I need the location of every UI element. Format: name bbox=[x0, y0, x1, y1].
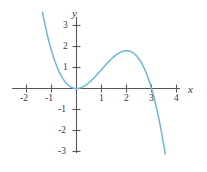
x-tick-label-neg2: -2 bbox=[20, 93, 28, 103]
coordinate-plot bbox=[0, 0, 207, 172]
x-tick-label-2: 2 bbox=[124, 93, 129, 103]
graph-figure: y x -2 -1 1 2 3 4 3 2 1 -1 -2 -3 bbox=[0, 0, 207, 172]
y-tick-label-neg2: -2 bbox=[58, 125, 66, 135]
y-tick-label-neg3: -3 bbox=[58, 146, 66, 156]
y-tick-label-1: 1 bbox=[63, 62, 68, 72]
x-tick-label-3: 3 bbox=[149, 93, 154, 103]
y-tick-label-neg1: -1 bbox=[58, 104, 66, 114]
x-tick-label-neg1: -1 bbox=[45, 93, 53, 103]
x-tick-label-1: 1 bbox=[99, 93, 104, 103]
x-tick-label-4: 4 bbox=[174, 93, 179, 103]
x-axis-label: x bbox=[188, 83, 193, 95]
y-tick-label-3: 3 bbox=[63, 20, 68, 30]
y-tick-label-2: 2 bbox=[63, 41, 68, 51]
y-axis-label: y bbox=[72, 7, 77, 19]
